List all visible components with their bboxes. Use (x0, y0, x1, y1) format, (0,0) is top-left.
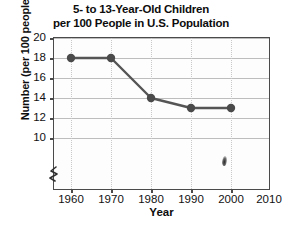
chart-title-line-2: per 100 People in U.S. Population (0, 16, 282, 30)
x-axis-title: Year (53, 206, 270, 218)
data-point-1960 (67, 54, 75, 62)
plot-area: 20 18 16 14 12 10 1960 1970 1980 1990 20… (53, 37, 270, 190)
x-tick-label-2010: 2010 (246, 194, 282, 206)
y-tick-label-16: 16 (0, 72, 46, 84)
y-tick-label-14: 14 (0, 92, 46, 104)
y-tick-label-10: 10 (0, 132, 46, 144)
y-tick-label-18: 18 (0, 52, 46, 64)
data-point-1980 (147, 94, 155, 102)
y-axis-break-icon (47, 166, 60, 182)
y-tick-label-20: 20 (0, 32, 46, 44)
line-chart-figure: 5- to 13-Year-Old Children per 100 Peopl… (0, 0, 282, 227)
data-point-1990 (187, 104, 195, 112)
chart-title: 5- to 13-Year-Old Children per 100 Peopl… (0, 2, 282, 30)
data-series-line (54, 38, 271, 191)
data-point-2000 (227, 104, 235, 112)
chart-title-line-1: 5- to 13-Year-Old Children (0, 2, 282, 16)
data-point-1970 (107, 54, 115, 62)
y-tick-label-12: 12 (0, 112, 46, 124)
